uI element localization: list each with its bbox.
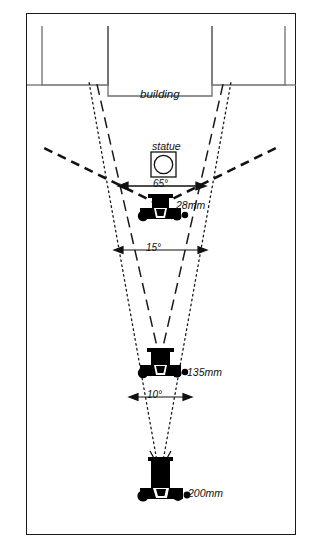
diagram-canvas: building statue 65° 28mm 15° 135mm 10° 2… [0, 0, 310, 550]
camera-icon-200mm [137, 451, 190, 502]
statue-symbol [151, 152, 176, 177]
statue-label: statue [152, 140, 181, 152]
fov-lines-135mm [96, 80, 224, 360]
angle-label-10: 10° [147, 389, 162, 400]
lens-label-135mm: 135mm [187, 366, 222, 378]
lens-label-28mm: 28mm [176, 199, 205, 211]
lens-label-200mm: 200mm [188, 487, 223, 499]
angle-label-15: 15° [146, 242, 161, 253]
diagram-graphics [0, 0, 310, 550]
building-outline [27, 26, 296, 96]
building-label: building [140, 88, 180, 100]
angle-label-65: 65° [153, 178, 168, 189]
